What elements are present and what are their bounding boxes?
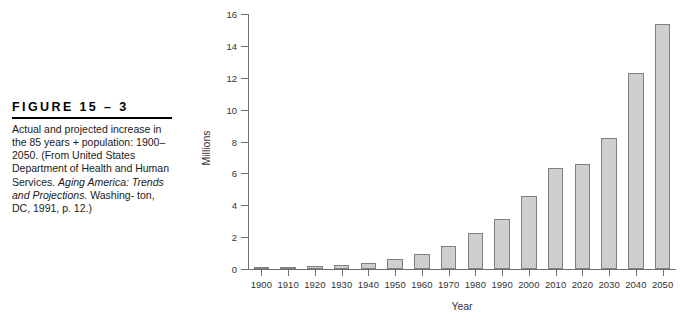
bar-1980: [468, 233, 484, 269]
y-tick-label-0: 0: [204, 264, 237, 275]
figure-number-heading: FIGURE 15 – 3: [12, 100, 172, 117]
bar-1930: [334, 265, 350, 269]
y-tick-8: [241, 142, 248, 143]
bar-1920: [307, 266, 323, 269]
x-tick-label-2040: 2040: [625, 279, 646, 290]
y-tick-2: [241, 237, 248, 238]
figure-heading-rule: [12, 117, 172, 119]
caption-line-7: Washing-: [87, 189, 134, 201]
y-tick-label-4: 4: [204, 200, 237, 211]
y-tick-4: [241, 205, 248, 206]
x-tick-1980: [475, 270, 476, 276]
x-tick-2050: [663, 270, 664, 276]
y-tick-label-2: 2: [204, 232, 237, 243]
bar-1990: [494, 219, 510, 269]
y-tick-label-16: 16: [204, 9, 237, 20]
x-tick-1920: [315, 270, 316, 276]
y-tick-14: [241, 46, 248, 47]
x-tick-label-1900: 1900: [251, 279, 272, 290]
y-tick-label-6: 6: [204, 168, 237, 179]
bar-2030: [601, 138, 617, 269]
bar-2020: [575, 164, 591, 269]
x-tick-label-2030: 2030: [599, 279, 620, 290]
x-tick-1970: [449, 270, 450, 276]
x-tick-1940: [368, 270, 369, 276]
x-tick-label-1970: 1970: [438, 279, 459, 290]
x-tick-label-1930: 1930: [331, 279, 352, 290]
y-tick-label-12: 12: [204, 72, 237, 83]
figure-caption-text: Actual and projected increase in the 85 …: [12, 123, 172, 216]
x-axis-title: Year: [451, 300, 472, 312]
figure-caption-block: FIGURE 15 – 3 Actual and projected incre…: [12, 100, 172, 216]
x-axis-line: [248, 269, 676, 270]
caption-italic-source-1: Aging America:: [58, 176, 129, 188]
bar-2010: [548, 168, 564, 269]
x-tick-label-1990: 1990: [492, 279, 513, 290]
caption-line-1: Actual and projected increase in: [12, 123, 161, 135]
y-tick-12: [241, 78, 248, 79]
x-tick-label-1910: 1910: [278, 279, 299, 290]
bar-2040: [628, 73, 644, 269]
bar-2000: [521, 196, 537, 269]
caption-line-2: the 85 years + population:: [12, 136, 133, 148]
bar-2050: [655, 24, 671, 269]
x-tick-1960: [422, 270, 423, 276]
y-tick-0: [241, 269, 248, 270]
y-tick-label-8: 8: [204, 136, 237, 147]
x-tick-1900: [261, 270, 262, 276]
x-tick-1910: [288, 270, 289, 276]
y-tick-6: [241, 173, 248, 174]
x-tick-1930: [342, 270, 343, 276]
x-tick-2010: [556, 270, 557, 276]
bar-1910: [280, 267, 296, 270]
x-tick-label-1950: 1950: [385, 279, 406, 290]
x-tick-label-2050: 2050: [652, 279, 673, 290]
x-tick-2030: [609, 270, 610, 276]
x-tick-label-2020: 2020: [572, 279, 593, 290]
bar-1960: [414, 254, 430, 269]
x-tick-label-1940: 1940: [358, 279, 379, 290]
bar-1950: [387, 259, 403, 269]
x-tick-label-2010: 2010: [545, 279, 566, 290]
x-tick-label-1960: 1960: [411, 279, 432, 290]
y-tick-16: [241, 14, 248, 15]
y-tick-label-10: 10: [204, 104, 237, 115]
x-tick-2020: [582, 270, 583, 276]
bar-1900: [254, 267, 270, 270]
x-tick-2000: [529, 270, 530, 276]
bar-1970: [441, 246, 457, 269]
x-tick-1950: [395, 270, 396, 276]
x-tick-2040: [636, 270, 637, 276]
y-tick-label-14: 14: [204, 40, 237, 51]
x-tick-label-1920: 1920: [304, 279, 325, 290]
bar-1940: [361, 263, 377, 269]
x-tick-1990: [502, 270, 503, 276]
x-tick-label-1980: 1980: [465, 279, 486, 290]
x-tick-label-2000: 2000: [518, 279, 539, 290]
y-tick-10: [241, 110, 248, 111]
